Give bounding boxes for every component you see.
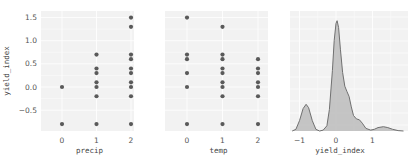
x-tick-label: 1 [94,136,99,145]
y-tick-label: 1.5 [25,13,37,22]
data-point [220,57,224,61]
panel-precip-vs-yield: 012precip−0.50.00.51.01.5 [19,6,134,155]
data-point [220,80,224,84]
data-point [220,66,224,70]
data-point [220,52,224,56]
data-point [129,66,133,70]
x-tick-label: 0 [334,136,339,145]
data-point [185,15,189,19]
data-point [94,80,98,84]
x-tick-label: −1 [294,136,305,145]
data-point [60,122,64,126]
data-point [129,80,133,84]
data-point [220,25,224,29]
data-point [129,85,133,89]
data-point [129,52,133,56]
data-point [185,71,189,75]
data-point [256,66,260,70]
x-tick-label: 1 [220,136,225,145]
data-point [94,94,98,98]
x-tick-label: 2 [256,136,261,145]
data-point [94,85,98,89]
y-tick-label: 0.0 [25,83,37,92]
data-point [220,94,224,98]
panel-temp-vs-yield: 012temp [165,6,268,155]
x-axis-label: temp [209,146,228,155]
pairplot-figure: 012precip−0.50.00.51.01.5 012temp −101yi… [0,0,414,160]
data-point [129,25,133,29]
data-point [94,66,98,70]
data-point [185,52,189,56]
data-point [220,85,224,89]
y-tick-label: 1.0 [25,36,37,45]
data-point [256,71,260,75]
data-point [220,122,224,126]
data-point [129,94,133,98]
data-point [256,80,260,84]
x-axis-label: yield_index [315,146,365,155]
data-point [94,71,98,75]
x-tick-label: 0 [60,136,65,145]
data-point [129,122,133,126]
y-axis-label: yield_index [2,46,11,96]
data-point [256,57,260,61]
y-tick-label: 0.5 [25,59,37,68]
data-point [94,122,98,126]
data-point [256,85,260,89]
x-axis-label: precip [76,146,104,155]
x-tick-label: 1 [370,136,375,145]
data-point [185,85,189,89]
panel-yield-index-kde: −101yield_index [290,11,408,155]
y-tick-label: −0.5 [19,106,37,115]
data-point [129,71,133,75]
data-point [185,122,189,126]
data-point [256,122,260,126]
data-point [129,15,133,19]
data-point [220,71,224,75]
x-tick-label: 0 [185,136,190,145]
data-point [185,57,189,61]
data-point [129,57,133,61]
data-point [256,94,260,98]
x-tick-label: 2 [129,136,134,145]
data-point [60,85,64,89]
chart-canvas: 012precip−0.50.00.51.01.5 012temp −101yi… [0,0,414,160]
data-point [94,52,98,56]
